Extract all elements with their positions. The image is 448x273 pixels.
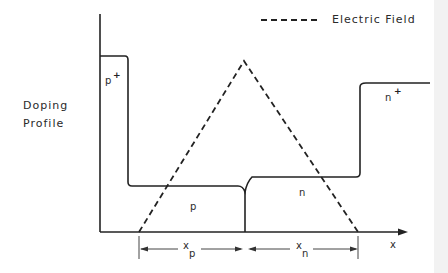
region-p-plus-text: p	[105, 75, 112, 86]
region-p-plus-superscript: +	[113, 70, 121, 80]
xp-label-subscript: p	[189, 248, 196, 259]
electric-field-triangle	[139, 61, 358, 232]
region-n-plus-superscript: +	[394, 86, 402, 96]
y-axis-label-line1: Doping	[23, 99, 68, 112]
legend-label: Electric Field	[332, 13, 416, 26]
x-axis-label: x	[390, 239, 397, 250]
x-axis-arrowhead	[398, 229, 408, 236]
xp-arrowhead-right	[235, 247, 243, 252]
xn-arrowhead-left	[248, 247, 256, 252]
doping-profile-diagram	[0, 0, 448, 273]
xn-label-subscript: n	[302, 248, 309, 259]
xp-arrowhead-left	[140, 247, 148, 252]
region-p-label: p	[190, 201, 197, 212]
region-p-plus-label: p	[105, 75, 112, 86]
doping-profile-curve	[100, 56, 430, 192]
region-n-plus-label: n	[385, 92, 392, 103]
xn-arrowhead-right	[350, 247, 358, 252]
region-n-label: n	[299, 187, 306, 198]
y-axis-label-line2: Profile	[23, 117, 64, 130]
